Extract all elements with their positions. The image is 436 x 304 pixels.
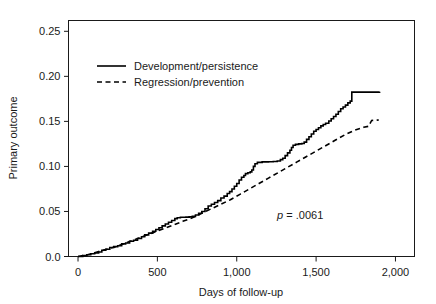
legend-label-regression-prevention: Regression/prevention [134,76,244,88]
figure-container: 0.00.050.100.150.200.25 05001,0001,5002,… [0,0,436,304]
p-value-text: = .0061 [283,209,323,221]
legend-label-development-persistence: Development/persistence [134,60,258,72]
y-tick-label: 0.20 [39,70,60,82]
x-axis-title: Days of follow-up [199,286,283,298]
y-tick-label: 0.10 [39,160,60,172]
y-tick-label: 0.15 [39,115,60,127]
p-value-annotation: p = .0061 [276,209,323,221]
x-tick-label: 500 [148,266,166,278]
y-axis-title: Primary outcome [7,96,19,179]
y-tick-label: 0.05 [39,205,60,217]
primary-outcome-cumulative-incidence-chart: 0.00.050.100.150.200.25 05001,0001,5002,… [0,0,436,304]
x-tick-label: 1,500 [302,266,330,278]
p-value-symbol: p [276,209,283,221]
y-tick-label: 0.0 [45,251,60,263]
y-tick-label: 0.25 [39,25,60,37]
x-tick-label: 1,000 [223,266,251,278]
chart-background [0,0,436,304]
x-tick-label: 0 [75,266,81,278]
x-tick-label: 2,000 [382,266,410,278]
